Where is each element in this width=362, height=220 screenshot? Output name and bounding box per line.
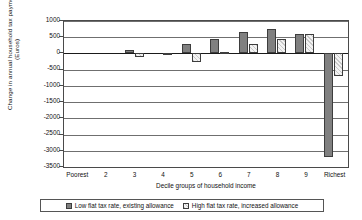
x-axis-tick-label: Poorest [63,170,92,182]
bar-group [64,21,92,167]
y-axis-tick-label: -2500 [20,130,60,136]
bar-group [263,21,291,167]
bar-series-1 [277,39,286,53]
bar-series-1 [135,53,144,57]
chart-legend: Low flat tax rate, existing allowance Hi… [40,199,324,212]
x-axis-tick-label: 9 [292,170,321,182]
bar-group [320,21,348,167]
y-axis-tick-label: -500 [20,65,60,71]
x-axis-tick-label: 4 [149,170,178,182]
legend-swatch-icon-series-1 [183,203,189,209]
bar-series-1 [334,53,343,76]
x-axis-labels: Poorest23456789Richest [63,170,349,182]
y-axis-tick-label: -3000 [20,147,60,153]
bar-series-0 [267,29,276,53]
plot-area [63,20,349,168]
y-axis-title: Change in annual household tax payments … [6,0,21,124]
legend-item-high-rate: High flat tax rate, increased allowance [183,202,298,209]
bar-series-1 [220,52,229,54]
x-axis-title: Decile groups of household income [63,182,349,189]
x-axis-tick-label: 5 [177,170,206,182]
bar-group [291,21,319,167]
gridline [64,167,348,168]
bar-series-1 [305,34,314,53]
y-axis-title-line1: Change in annual household tax payments [6,0,13,110]
bar-group [178,21,206,167]
bar-series-0 [182,44,191,54]
y-axis-tick-label: 500 [20,33,60,39]
bar-series-0 [210,39,219,54]
y-axis-tick-label: 1000 [20,17,60,23]
legend-swatch-icon-series-0 [66,203,72,209]
legend-label-series-1: High flat tax rate, increased allowance [192,202,298,209]
bar-series-1 [192,53,201,62]
bar-series-0 [239,32,248,53]
bar-series-0 [295,34,304,53]
legend-label-series-0: Low flat tax rate, existing allowance [75,202,174,209]
x-axis-tick-label: 3 [120,170,149,182]
y-axis-tick-label: -3500 [20,163,60,169]
legend-item-low-rate: Low flat tax rate, existing allowance [66,202,174,209]
bar-series-1 [163,53,172,55]
chart-container: Change in annual household tax payments … [0,0,362,220]
bar-group [234,21,262,167]
y-axis-tick-label: -2000 [20,114,60,120]
bar-series-0 [125,50,134,53]
x-axis-tick-label: Richest [320,170,349,182]
x-axis-tick-label: 2 [92,170,121,182]
bar-series-1 [249,44,258,53]
x-axis-tick-label: 8 [263,170,292,182]
x-axis-tick-label: 6 [206,170,235,182]
y-axis-tick-label: 0 [20,49,60,55]
y-axis-tick-label: -1500 [20,98,60,104]
bar-group [149,21,177,167]
y-axis-tick-label: -1000 [20,82,60,88]
bar-group [206,21,234,167]
bar-groups [64,21,348,167]
x-axis-tick-label: 7 [235,170,264,182]
bar-group [92,21,120,167]
bar-series-0 [324,53,333,157]
bar-group [121,21,149,167]
